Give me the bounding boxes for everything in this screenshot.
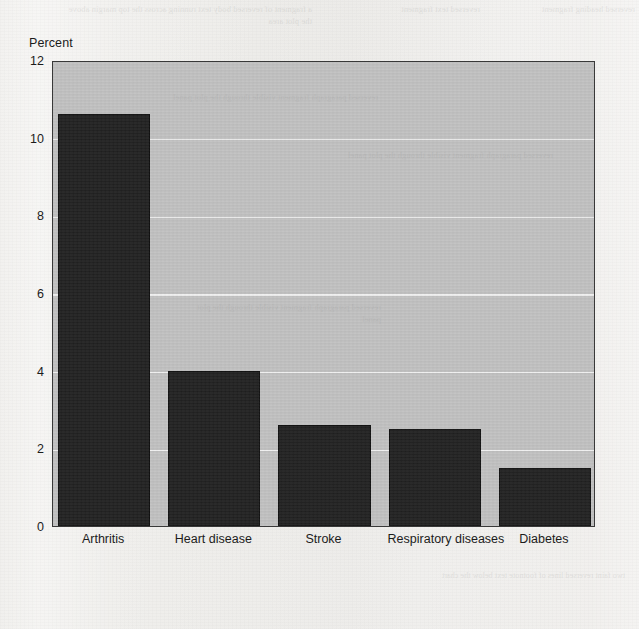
y-axis-tick-label: 0 bbox=[4, 520, 44, 534]
bar bbox=[389, 429, 481, 526]
y-axis-tick-label: 10 bbox=[4, 132, 44, 146]
y-axis-tick-labels: 024681012 bbox=[0, 61, 44, 527]
x-axis-tick-labels: ArthritisHeart diseaseStrokeRespiratory … bbox=[52, 532, 595, 556]
y-axis-title: Percent bbox=[29, 36, 73, 50]
x-axis-tick-label: Stroke bbox=[277, 532, 369, 546]
scanned-page: a fragment of reversed body text running… bbox=[0, 0, 639, 629]
y-axis-tick-label: 8 bbox=[4, 209, 44, 223]
x-axis-tick-label: Heart disease bbox=[167, 532, 259, 546]
bar bbox=[168, 371, 260, 526]
bar bbox=[58, 114, 150, 526]
y-axis-tick-label: 12 bbox=[4, 54, 44, 68]
y-axis-tick-label: 4 bbox=[4, 365, 44, 379]
bar-chart: Percent 024681012 reversed paragraph fra… bbox=[0, 0, 639, 629]
x-axis-tick-label: Arthritis bbox=[57, 532, 149, 546]
y-axis-tick-label: 2 bbox=[4, 442, 44, 456]
x-axis-tick-label: Diabetes bbox=[498, 532, 590, 546]
bar bbox=[499, 468, 591, 526]
bar-series bbox=[53, 62, 594, 526]
x-axis-tick-label: Respiratory diseases bbox=[388, 532, 480, 546]
bar bbox=[278, 425, 370, 526]
plot-area: reversed paragraph fragment visible thro… bbox=[52, 61, 595, 527]
y-axis-tick-label: 6 bbox=[4, 287, 44, 301]
